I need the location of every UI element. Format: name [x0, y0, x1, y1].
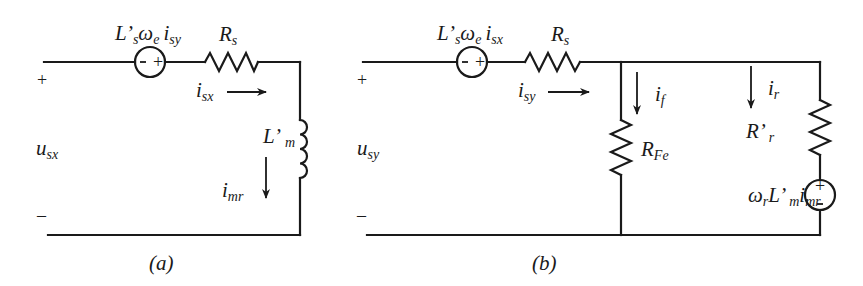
- source-plus-a: +: [153, 52, 163, 72]
- caption-a: (a): [149, 251, 174, 275]
- rotor-source-label: ωrL’mimr: [748, 183, 821, 209]
- current-label-isy: isy: [518, 78, 536, 104]
- source-plus-b: +: [475, 52, 485, 72]
- resistor-rfe: [611, 120, 631, 175]
- resistor-rr: [810, 100, 830, 155]
- terminal-plus-a: +: [37, 70, 47, 90]
- terminal-minus-a: –: [36, 205, 47, 225]
- resistor-label-rfe: RFe: [640, 137, 669, 163]
- resistor-rs-a: [205, 53, 258, 71]
- resistor-label-rs-b: Rs: [550, 22, 570, 48]
- inductor-lm: [300, 120, 307, 178]
- source-label-b: L’sωeisx: [436, 21, 504, 47]
- inductor-label-lm: L’m: [262, 124, 295, 150]
- voltage-label-usx: usx: [36, 136, 59, 162]
- resistor-label-rs-a: Rs: [218, 22, 238, 48]
- resistor-rs-b: [525, 53, 580, 71]
- terminal-minus-b: –: [356, 205, 367, 225]
- circuit-b: + + + – usy L’sωeisx Rs isy if: [356, 21, 835, 275]
- current-label-ir: ir: [768, 76, 780, 102]
- current-label-imr: imr: [222, 178, 244, 204]
- equivalent-circuit-diagram: + + – usx L’sωeisy Rs isx L’m imr: [0, 0, 863, 286]
- circuit-a: + + – usx L’sωeisy Rs isx L’m imr: [36, 21, 307, 275]
- source-label-a: L’sωeisy: [114, 21, 182, 47]
- current-label-if: if: [655, 82, 667, 108]
- rotor-source-plus: +: [815, 176, 825, 196]
- caption-b: (b): [532, 251, 557, 275]
- current-label-isx: isx: [196, 78, 214, 104]
- voltage-label-usy: usy: [357, 136, 380, 162]
- resistor-label-rr: R’r: [745, 119, 775, 145]
- terminal-plus-b: +: [357, 70, 367, 90]
